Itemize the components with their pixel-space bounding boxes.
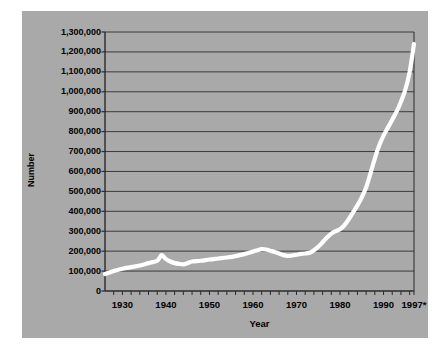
x-tick-label: 1997* [393, 300, 435, 310]
x-axis-title: Year [105, 318, 414, 329]
y-axis-title: Number [26, 140, 38, 200]
x-tick-label: 1930 [101, 300, 143, 310]
x-tick-label: 1960 [232, 300, 274, 310]
x-tick-label: 1970 [275, 300, 317, 310]
chart-figure: 0100,000200,000300,000400,000500,000600,… [0, 0, 447, 354]
x-tick-label: 1980 [319, 300, 361, 310]
x-tick-label: 1950 [188, 300, 230, 310]
x-axis-tick-labels: 19301940195019601970198019901997* [0, 0, 447, 354]
x-tick-label: 1940 [145, 300, 187, 310]
